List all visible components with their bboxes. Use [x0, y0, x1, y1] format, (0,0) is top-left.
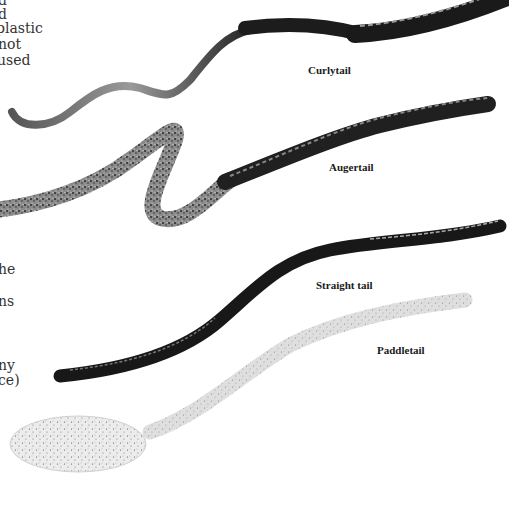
paddletail-worm: [10, 300, 465, 472]
caption-curlytail: Curlytail: [308, 64, 351, 76]
augertail-worm: [0, 98, 488, 219]
caption-straight-tail: Straight tail: [316, 279, 373, 291]
caption-paddletail: Paddletail: [377, 344, 425, 356]
worm-illustrations: [0, 0, 509, 505]
caption-augertail: Augertail: [329, 161, 374, 173]
